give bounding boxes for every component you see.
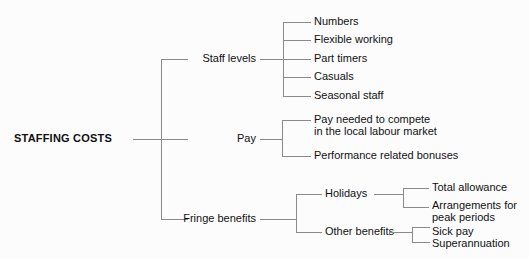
leaf-label-flexible-working: Flexible working [314,34,393,46]
edge-other-benefits-bracket [412,227,413,243]
edge-to-arrangements-for-peak-periods [403,207,429,208]
edge-to-other-benefits [296,232,322,233]
root-node-staffing-costs: STAFFING COSTS [14,133,112,145]
edge-to-holidays [296,194,322,195]
edge-holidays-bracket [403,188,404,208]
leaf-label-seasonal-staff: Seasonal staff [314,90,384,102]
edge-pay-stem [260,139,283,140]
edge-to-casuals [283,77,311,78]
leaf-label-casuals: Casuals [314,71,354,83]
edge-fringe-benefits-stem [260,219,297,220]
leaf-label-pay-needed-to-compete: Pay needed to compete in the local labou… [314,114,437,137]
edge-holidays-stem [374,194,404,195]
branch-label-fringe-benefits: Fringe benefits [156,213,256,225]
subbranch-label-holidays: Holidays [325,188,367,200]
staffing-costs-tree-diagram: STAFFING COSTS Staff levels Pay Fringe b… [0,0,529,258]
edge-pay-bracket [282,120,283,156]
edge-to-numbers [283,22,311,23]
edge-to-performance-related-bonuses [282,156,311,157]
edge-to-sick-pay [412,227,430,228]
edge-fringe-benefits-bracket [296,194,297,233]
edge-to-total-allowance [403,188,429,189]
branch-label-staff-levels: Staff levels [156,53,256,65]
leaf-label-part-timers: Part timers [314,53,367,65]
edge-to-flexible-working [283,40,311,41]
edge-to-superannuation [412,242,430,243]
edge-to-seasonal-staff [283,96,311,97]
edge-other-benefits-stem [389,232,413,233]
leaf-label-arrangements-for-peak-periods: Arrangements for peak periods [432,200,517,223]
subbranch-label-other-benefits: Other benefits [325,226,394,238]
leaf-label-performance-related-bonuses: Performance related bonuses [314,150,458,162]
leaf-label-total-allowance: Total allowance [432,182,507,194]
leaf-label-numbers: Numbers [314,16,359,28]
branch-label-pay: Pay [156,133,256,145]
edge-staff-levels-stem [260,59,284,60]
leaf-label-sick-pay-superannuation: Sick pay Superannuation [432,226,510,249]
edge-to-part-timers [283,59,311,60]
edge-to-pay-needed-to-compete [282,120,311,121]
